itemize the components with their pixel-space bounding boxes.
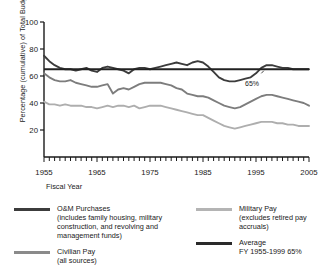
legend-label-average: Average FY 1955-1999 65% [239, 238, 302, 256]
legend-item-civilian-pay: Civilian Pay (all sources) [14, 247, 189, 265]
x-axis-label: Fiscal Year [46, 182, 82, 191]
legend-item-om-purchases: O&M Purchases (includes family housing, … [14, 204, 189, 240]
legend-swatch-military-pay [196, 208, 232, 211]
y-axis-label: Percentage (cumulative) of Total Budget [18, 0, 27, 137]
annotation-leader-line [261, 71, 264, 74]
legend-swatch-average [196, 242, 232, 245]
y-tick-label: 80 [29, 45, 38, 54]
legend-sub-military-pay: (excludes retired pay accruals) [239, 213, 314, 231]
x-tick-label: 1975 [141, 168, 159, 177]
y-tick-label: 40 [29, 99, 38, 108]
x-tick-label: 1965 [88, 168, 106, 177]
x-tick-label: 1985 [194, 168, 212, 177]
chart-plot-area: 20406080100195519651975198519952005 Perc… [0, 0, 319, 200]
legend-sub-average: FY 1955-1999 65% [239, 247, 302, 256]
legend-swatch-civilian-pay [14, 251, 50, 254]
y-tick-label: 20 [29, 126, 38, 135]
legend-column-left: O&M Purchases (includes family housing, … [14, 204, 189, 273]
legend-title-om-purchases: O&M Purchases [57, 204, 189, 213]
average-callout-label: 65% [245, 80, 259, 87]
y-tick-label: 100 [25, 18, 39, 27]
chart-annotation-layer [261, 71, 264, 74]
x-tick-label: 2005 [300, 168, 318, 177]
legend-column-right: Military Pay (excludes retired pay accru… [196, 204, 314, 263]
legend-label-om-purchases: O&M Purchases (includes family housing, … [57, 204, 189, 240]
chart-series-layer [44, 56, 309, 129]
legend-title-civilian-pay: Civilian Pay [57, 247, 97, 256]
legend-item-average: Average FY 1955-1999 65% [196, 238, 314, 256]
chart-figure: 20406080100195519651975198519952005 Perc… [0, 0, 319, 278]
legend-sub-om-purchases: (includes family housing, military const… [57, 213, 189, 240]
series-line-civilian-pay [44, 73, 309, 108]
legend-item-military-pay: Military Pay (excludes retired pay accru… [196, 204, 314, 231]
legend-label-military-pay: Military Pay (excludes retired pay accru… [239, 204, 314, 231]
y-tick-label: 60 [29, 72, 38, 81]
legend-title-military-pay: Military Pay [239, 204, 314, 213]
line-chart-svg: 20406080100195519651975198519952005 [0, 0, 319, 200]
legend-swatch-om-purchases [14, 208, 50, 211]
series-line-military-pay [44, 102, 309, 129]
legend-title-average: Average [239, 238, 302, 247]
x-tick-label: 1995 [247, 168, 265, 177]
legend-sub-civilian-pay: (all sources) [57, 256, 97, 265]
chart-legend: O&M Purchases (includes family housing, … [0, 204, 319, 278]
legend-label-civilian-pay: Civilian Pay (all sources) [57, 247, 97, 265]
chart-axes: 20406080100195519651975198519952005 [25, 18, 318, 177]
x-tick-label: 1955 [35, 168, 53, 177]
